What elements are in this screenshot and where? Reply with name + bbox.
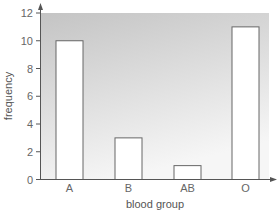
y-tick-label: 4 — [27, 118, 33, 130]
y-tick-label: 2 — [27, 146, 33, 158]
y-axis-label: frequency — [2, 71, 14, 120]
x-tick-label: AB — [180, 182, 195, 194]
x-ticks: ABABO — [66, 182, 250, 194]
x-tick-label: O — [241, 182, 250, 194]
bar-chart: 024681012 ABABO blood group frequency — [0, 0, 277, 216]
bar-ab — [174, 166, 201, 180]
x-tick-label: A — [66, 182, 74, 194]
y-tick-label: 12 — [21, 7, 33, 19]
x-axis-arrow-icon — [270, 177, 277, 182]
bar-a — [56, 41, 83, 180]
x-tick-label: B — [125, 182, 132, 194]
y-tick-label: 10 — [21, 35, 33, 47]
y-tick-label: 0 — [27, 174, 33, 186]
y-tick-label: 6 — [27, 90, 33, 102]
bar-o — [232, 27, 259, 180]
x-axis-label: blood group — [126, 198, 184, 210]
y-tick-label: 8 — [27, 63, 33, 75]
bar-b — [115, 138, 142, 180]
y-ticks: 024681012 — [21, 7, 41, 186]
y-axis-arrow-icon — [38, 3, 43, 10]
